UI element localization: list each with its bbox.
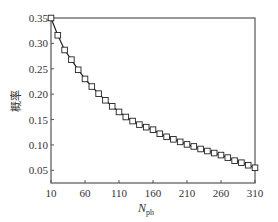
y-tick-label: 0.35 <box>29 12 49 24</box>
x-axis-label: Nph <box>137 201 154 217</box>
square-marker <box>89 84 95 90</box>
square-marker <box>177 139 183 145</box>
y-tick-label: 0.15 <box>29 114 49 126</box>
square-marker <box>171 137 177 143</box>
square-marker <box>109 104 115 110</box>
probability-chart: 10601101602102603100.050.100.150.200.250… <box>0 0 278 222</box>
x-tick-label: 60 <box>80 187 92 199</box>
x-tick-label: 210 <box>179 187 196 199</box>
square-marker <box>232 158 238 164</box>
x-tick-label: 10 <box>46 187 58 199</box>
square-marker <box>96 91 102 97</box>
square-marker <box>252 165 258 171</box>
square-marker <box>150 127 156 133</box>
square-marker <box>123 114 129 120</box>
square-marker <box>69 57 75 63</box>
square-marker <box>225 155 231 161</box>
y-axis-label: 概率 <box>9 90 22 112</box>
square-marker <box>191 144 197 150</box>
square-marker <box>137 122 143 128</box>
square-marker <box>75 67 81 73</box>
y-tick-label: 0.10 <box>29 139 49 151</box>
square-marker <box>82 76 88 82</box>
y-tick-label: 0.25 <box>29 63 49 75</box>
square-marker <box>143 124 149 130</box>
square-marker <box>184 142 190 148</box>
x-tick-label: 260 <box>213 187 230 199</box>
square-marker <box>103 97 109 103</box>
y-tick-label: 0.05 <box>29 164 49 176</box>
square-marker <box>211 150 217 156</box>
square-marker <box>55 32 61 38</box>
square-marker <box>218 152 224 158</box>
y-tick-label: 0.20 <box>29 88 49 100</box>
square-marker <box>239 160 245 166</box>
x-tick-label: 160 <box>145 187 162 199</box>
series-line <box>51 18 255 168</box>
y-tick-label: 0.30 <box>29 37 49 49</box>
x-tick-label: 110 <box>111 187 128 199</box>
square-marker <box>245 162 251 168</box>
square-marker <box>116 109 122 115</box>
x-tick-label: 310 <box>247 187 264 199</box>
plot-axes <box>51 18 255 183</box>
plot-frame <box>51 18 255 183</box>
data-series <box>48 15 258 170</box>
square-marker <box>198 146 204 152</box>
square-marker <box>164 134 170 140</box>
square-marker <box>205 148 211 154</box>
square-marker <box>48 15 54 21</box>
square-marker <box>130 118 136 124</box>
axis-ticks: 10601101602102603100.050.100.150.200.250… <box>29 12 264 199</box>
square-marker <box>157 131 163 137</box>
square-marker <box>62 47 68 53</box>
